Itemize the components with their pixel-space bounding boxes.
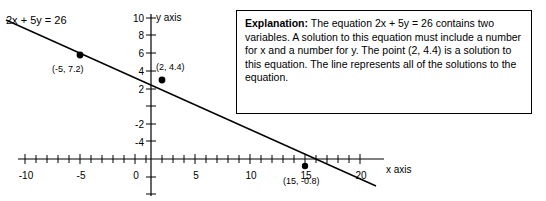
- explanation-box: Explanation: The equation 2x + 5y = 26 c…: [236, 10, 532, 114]
- x-tick-label: 20: [352, 170, 370, 181]
- y-tick-label: -4: [122, 137, 144, 148]
- y-tick-label: 6: [122, 48, 144, 59]
- y-tick-label: 2: [122, 84, 144, 95]
- x-tick-label: 10: [242, 170, 260, 181]
- y-tick-label: 8: [122, 30, 144, 41]
- x-tick-label: -5: [72, 170, 90, 181]
- x-tick-label: 5: [187, 170, 205, 181]
- x-tick-label: -10: [17, 170, 35, 181]
- y-tick-label: 4: [122, 66, 144, 77]
- data-point: [302, 163, 308, 169]
- data-point: [159, 77, 166, 84]
- y-tick-label: 10: [122, 13, 144, 24]
- point-label: (-5, 7.2): [52, 64, 84, 74]
- point-label: (15, -0.8): [283, 176, 320, 186]
- explanation-heading: Explanation:: [245, 17, 308, 29]
- y-tick-label: -2: [122, 119, 144, 130]
- equation-label: 2x + 5y = 26: [6, 14, 67, 26]
- x-axis-label: x axis: [386, 164, 412, 175]
- figure-root: 2x + 5y = 26 y axis x axis -10 -5 0 5 10…: [0, 0, 546, 201]
- point-label: (2, 4.4): [156, 62, 185, 72]
- data-point: [77, 52, 84, 59]
- x-tick-label: 0: [127, 170, 145, 181]
- y-axis-label: y axis: [156, 12, 182, 23]
